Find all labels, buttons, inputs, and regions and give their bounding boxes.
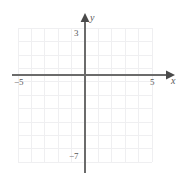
y-tick-label-3: 3 <box>74 29 79 38</box>
coordinate-plane-figure: y x 3 −7 −5 5 <box>0 0 183 181</box>
x-axis-label: x <box>171 76 175 86</box>
x-tick-label-5: 5 <box>150 78 155 87</box>
y-axis-label: y <box>90 13 94 23</box>
x-tick-label-minus-5: −5 <box>14 78 24 87</box>
y-tick-label-minus-7: −7 <box>69 152 79 161</box>
y-axis-arrowhead <box>81 13 90 22</box>
graph-canvas <box>0 0 183 181</box>
